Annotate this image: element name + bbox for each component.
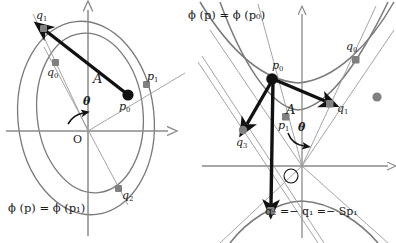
label-q3: q3 (236, 137, 247, 150)
label-q2: q2 (122, 190, 133, 203)
label-vector-A-left: A (93, 72, 102, 85)
marker-q2 (115, 185, 122, 192)
label-origin-left: O (73, 134, 82, 145)
label-q1: q1 (337, 103, 348, 116)
marker-q0 (352, 56, 360, 64)
marker-q1 (326, 100, 334, 108)
caption-right: ϕ (p) = ϕ (p₀) (188, 10, 265, 22)
line-through-q0 (302, 6, 376, 166)
label-p1: p1 (147, 71, 158, 84)
marker-q0 (52, 59, 59, 66)
outer-ellipse (8, 14, 164, 221)
label-q0: q0 (346, 41, 357, 54)
marker-p0 (122, 89, 133, 100)
marker-q3 (239, 126, 247, 134)
marker-p0 (266, 73, 278, 85)
figure-canvas: q1 q0 p1 p0 q2 A θ O ϕ (p) = ϕ (p₁) (0, 0, 396, 243)
marker-q1 (40, 25, 47, 32)
label-q0: q0 (47, 67, 58, 80)
label-p1: p1 (278, 120, 289, 133)
left-panel: q1 q0 p1 p0 q2 A θ O ϕ (p) = ϕ (p₁) (0, 0, 198, 243)
asymptote-2 (210, 30, 302, 166)
caption-left: ϕ (p) = ϕ (p₁) (8, 203, 85, 215)
marker-free (372, 92, 381, 101)
label-theta-right: θ (298, 122, 305, 133)
vector-q2 (271, 79, 273, 204)
label-vector-A-right: A (286, 103, 295, 116)
line-through-p0 (258, 4, 302, 166)
right-panel: ϕ (p) = ϕ (p₀) p0 q0 q1 p1 q3 A θ q₂ =− … (198, 0, 396, 243)
label-q1: q1 (36, 10, 47, 23)
label-p0: p0 (119, 101, 130, 114)
bottom-equation: q₂ =− q₁ =− Sp₁ (265, 206, 358, 217)
label-theta-left: θ (83, 96, 90, 107)
ray-p-direction (88, 73, 185, 131)
label-p0: p0 (272, 60, 283, 73)
